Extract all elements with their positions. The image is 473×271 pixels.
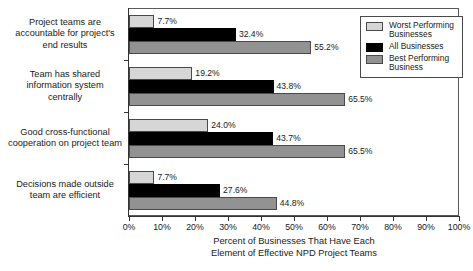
x-axis-tick <box>360 217 361 221</box>
bar-best <box>129 41 311 54</box>
bar-worst <box>129 15 154 28</box>
horizontal-bar-chart: Project teams areaccountable for project… <box>0 0 473 271</box>
category-label: Good cross-functionalcooperation on proj… <box>6 127 124 150</box>
bar-value-label: 65.5% <box>348 146 372 156</box>
legend-label-line: Businesses <box>389 30 454 39</box>
legend-swatch-worst <box>366 22 383 31</box>
bar-value-label: 24.0% <box>211 120 235 130</box>
x-axis-tick <box>393 217 394 221</box>
x-axis-tick <box>459 217 460 221</box>
category-label-line: cooperation on project team <box>6 138 124 150</box>
y-axis-tick <box>124 60 129 61</box>
bar-worst <box>129 67 192 80</box>
category-label-line: Good cross-functional <box>6 127 124 139</box>
bar-best <box>129 197 277 210</box>
x-axis-tick <box>228 217 229 221</box>
category-label-line: accountable for project's <box>6 28 124 40</box>
bar-value-label: 32.4% <box>239 29 263 39</box>
legend-swatch-best <box>366 55 383 64</box>
bar-value-label: 7.7% <box>157 16 177 26</box>
bar-all <box>129 80 274 93</box>
bar-value-label: 19.2% <box>195 68 219 78</box>
legend-label: All Businesses <box>389 42 443 51</box>
bar-worst <box>129 171 154 184</box>
legend-item: Best PerformingBusiness <box>366 54 458 73</box>
legend-swatch-all <box>366 43 383 52</box>
bar-value-label: 65.5% <box>348 94 372 104</box>
category-label-line: Team has shared <box>6 69 124 81</box>
x-axis-tick <box>261 217 262 221</box>
chart-legend: Worst PerformingBusinessesAll Businesses… <box>360 16 463 78</box>
legend-label-line: All Businesses <box>389 42 443 51</box>
x-axis-tick-label: 100% <box>439 222 473 233</box>
y-axis-tick <box>124 112 129 113</box>
legend-item: All Businesses <box>366 42 458 52</box>
x-axis-tick <box>162 217 163 221</box>
bar-value-label: 55.2% <box>314 42 338 52</box>
bar-all <box>129 28 236 41</box>
x-axis-tick <box>426 217 427 221</box>
category-label-line: end results <box>6 40 124 52</box>
bar-value-label: 44.8% <box>280 198 304 208</box>
x-axis-tick <box>294 217 295 221</box>
category-label: Decisions made outsideteam are efficient <box>6 179 124 202</box>
x-axis-tick <box>129 217 130 221</box>
legend-label: Worst PerformingBusinesses <box>389 21 454 40</box>
x-axis-title-line-2: Element of Effective NPD Project Teams <box>128 248 460 260</box>
legend-item: Worst PerformingBusinesses <box>366 21 458 40</box>
bar-value-label: 43.8% <box>277 81 301 91</box>
category-label-line: team are efficient <box>6 190 124 202</box>
bar-all <box>129 132 273 145</box>
y-axis-tick <box>124 164 129 165</box>
bar-best <box>129 145 345 158</box>
legend-label-line: Business <box>389 63 449 72</box>
x-axis-tick <box>327 217 328 221</box>
x-axis-tick <box>195 217 196 221</box>
category-label-line: information system <box>6 80 124 92</box>
category-label: Project teams areaccountable for project… <box>6 17 124 52</box>
bar-value-label: 43.7% <box>276 133 300 143</box>
x-axis-title: Percent of Businesses That Have Each Ele… <box>128 236 460 259</box>
bar-worst <box>129 119 208 132</box>
bar-value-label: 7.7% <box>157 172 177 182</box>
category-label-line: Decisions made outside <box>6 179 124 191</box>
bar-all <box>129 184 220 197</box>
bar-value-label: 27.6% <box>223 185 247 195</box>
category-label-line: centrally <box>6 92 124 104</box>
legend-label: Best PerformingBusiness <box>389 54 449 73</box>
bar-best <box>129 93 345 106</box>
x-axis-title-line-1: Percent of Businesses That Have Each <box>128 236 460 248</box>
category-label-line: Project teams are <box>6 17 124 29</box>
category-label: Team has sharedinformation systemcentral… <box>6 69 124 104</box>
